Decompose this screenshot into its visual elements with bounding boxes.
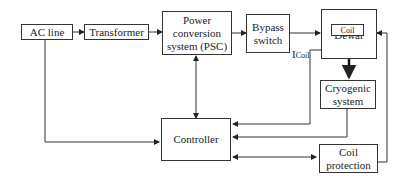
controller-box: Controller — [161, 118, 231, 161]
controller-label: Controller — [173, 133, 218, 146]
bypass-label-1: Bypass — [252, 21, 284, 34]
block-diagram: AC line Transformer Power conversion sys… — [0, 0, 407, 182]
coil-protection-box: Coil protection — [319, 144, 378, 173]
bypass-switch-box: Bypass switch — [246, 14, 290, 53]
ac-line-box: AC line — [21, 24, 73, 40]
coil-label: Coil — [341, 24, 355, 37]
ac-line-label: AC line — [30, 26, 65, 39]
coilprot-label-1: Coil — [339, 146, 358, 159]
bypass-label-2: switch — [254, 34, 283, 47]
psc-label-3: system (PSC) — [167, 40, 227, 53]
cryo-label-2: system — [333, 95, 364, 108]
coil-box: Coil — [331, 24, 364, 36]
icoil-sub: Coil — [296, 51, 310, 60]
transformer-label: Transformer — [89, 26, 144, 39]
icoil-label: ICoil — [292, 48, 309, 60]
psc-label-1: Power — [183, 14, 211, 27]
cryo-label-1: Cryogenic — [325, 82, 371, 95]
transformer-box: Transformer — [84, 24, 149, 40]
cryogenic-system-box: Cryogenic system — [320, 80, 376, 109]
psc-label-2: conversion — [173, 27, 221, 40]
coilprot-label-2: protection — [326, 159, 371, 172]
psc-box: Power conversion system (PSC) — [162, 11, 232, 55]
